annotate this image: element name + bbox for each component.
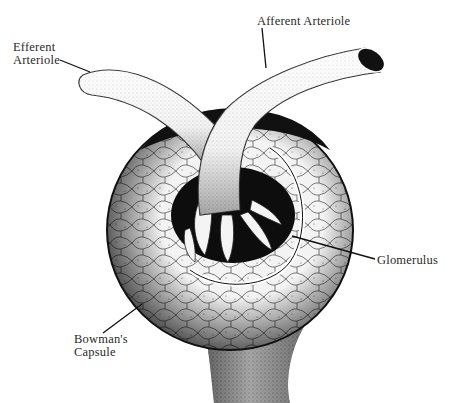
- efferent-leader-line: [60, 60, 90, 72]
- bowman-leader-line: [103, 304, 142, 333]
- renal-corpuscle-diagram: Efferent Arteriole Afferent Arteriole Gl…: [0, 0, 454, 403]
- label-efferent-arteriole: Efferent Arteriole: [13, 41, 60, 67]
- label-bowmans-capsule: Bowman's Capsule: [74, 333, 128, 359]
- label-efferent-line2: Arteriole: [13, 54, 60, 67]
- label-afferent-arteriole: Afferent Arteriole: [257, 15, 350, 28]
- afferent-leader-line: [262, 28, 266, 68]
- diagram-illustration: [0, 0, 454, 403]
- label-bowman-line2: Capsule: [74, 346, 128, 359]
- label-glomerulus: Glomerulus: [377, 254, 438, 267]
